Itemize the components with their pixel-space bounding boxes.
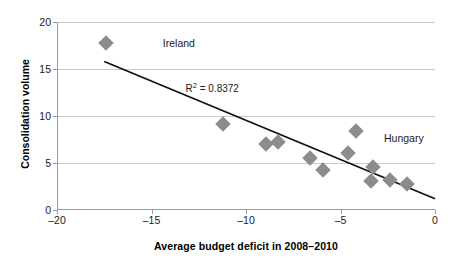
data-point-9[interactable] xyxy=(363,173,379,189)
data-point-5[interactable] xyxy=(316,162,332,178)
gridline-y-20 xyxy=(57,22,435,23)
data-point-8[interactable] xyxy=(365,159,381,175)
y-tick-5 xyxy=(53,163,57,164)
x-tick--5 xyxy=(341,210,342,214)
x-tick--10 xyxy=(246,210,247,214)
plot-area: IrelandHungaryR2 = 0.8372 xyxy=(57,22,435,210)
hungary-label: Hungary xyxy=(384,133,424,144)
x-axis-title: Average budget deficit in 2008–2010 xyxy=(57,240,435,252)
data-point-ireland[interactable] xyxy=(98,35,114,51)
y-axis-tick-labels: 05101520 xyxy=(26,22,51,210)
y-tick-label-15: 15 xyxy=(39,64,51,75)
x-tick-label--20: –20 xyxy=(48,215,66,226)
y-tick-20 xyxy=(53,22,57,23)
x-tick-label--10: –10 xyxy=(237,215,255,226)
y-tick-label-5: 5 xyxy=(45,158,51,169)
r2-label: R2 = 0.8372 xyxy=(186,82,239,94)
x-axis-tick-labels: –20–15–10–50 xyxy=(57,215,435,229)
y-tick-label-20: 20 xyxy=(39,17,51,28)
data-point-3[interactable] xyxy=(270,135,286,151)
y-axis-line xyxy=(57,22,58,210)
scatter-chart: Consolidation volume 05101520 –20–15–10–… xyxy=(0,0,452,271)
x-tick-label-0: 0 xyxy=(432,215,438,226)
y-tick-10 xyxy=(53,116,57,117)
x-tick-0 xyxy=(435,210,436,214)
ireland-label: Ireland xyxy=(163,38,195,49)
x-tick-label--5: –5 xyxy=(335,215,347,226)
data-point-1[interactable] xyxy=(216,117,232,133)
y-tick-label-10: 10 xyxy=(39,111,51,122)
x-tick--20 xyxy=(57,210,58,214)
y-tick-15 xyxy=(53,69,57,70)
data-point-7[interactable] xyxy=(340,145,356,161)
data-point-11[interactable] xyxy=(399,176,415,192)
data-point-hungary[interactable] xyxy=(348,123,364,139)
x-tick-label--15: –15 xyxy=(143,215,161,226)
gridline-y-15 xyxy=(57,69,435,70)
data-point-2[interactable] xyxy=(258,136,274,152)
x-tick--15 xyxy=(152,210,153,214)
data-point-10[interactable] xyxy=(382,172,398,188)
gridline-y-10 xyxy=(57,116,435,117)
